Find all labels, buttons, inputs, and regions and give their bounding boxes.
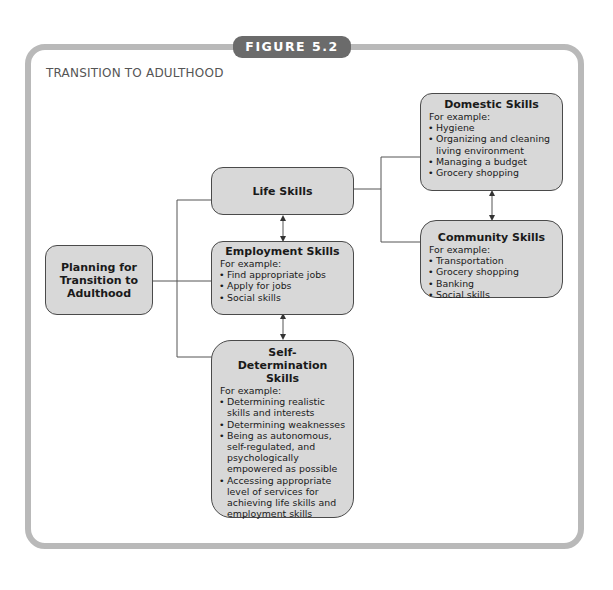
node-community-list: Transportation Grocery shopping Banking … bbox=[427, 255, 556, 300]
list-item: Determining realistic skills and interes… bbox=[218, 396, 347, 418]
node-planning: Planning for Transition to Adulthood bbox=[45, 245, 153, 315]
node-domestic-intro: For example: bbox=[427, 111, 556, 122]
node-planning-label: Planning for Transition to Adulthood bbox=[46, 261, 152, 300]
list-item: Banking bbox=[427, 278, 556, 289]
node-self-determination: Self-Determination Skills For example: D… bbox=[211, 340, 354, 518]
node-life-skills: Life Skills bbox=[211, 167, 354, 215]
list-item: Determining weaknesses bbox=[218, 419, 347, 430]
list-item: Apply for jobs bbox=[218, 280, 347, 291]
node-employment-intro: For example: bbox=[218, 258, 347, 269]
node-self-determination-list: Determining realistic skills and interes… bbox=[218, 396, 347, 519]
node-employment-label: Employment Skills bbox=[218, 245, 347, 258]
node-community-label: Community Skills bbox=[427, 231, 556, 244]
list-item: Accessing appropriate level of services … bbox=[218, 475, 347, 520]
list-item: Being as autonomous, self-regulated, and… bbox=[218, 430, 347, 475]
list-item: Hygiene bbox=[427, 122, 556, 133]
node-employment: Employment Skills For example: Find appr… bbox=[211, 241, 354, 315]
node-self-determination-label: Self-Determination Skills bbox=[218, 346, 347, 385]
list-item: Find appropriate jobs bbox=[218, 269, 347, 280]
node-domestic-list: Hygiene Organizing and cleaning living e… bbox=[427, 122, 556, 178]
list-item: Transportation bbox=[427, 255, 556, 266]
node-community: Community Skills For example: Transporta… bbox=[420, 220, 563, 298]
node-community-intro: For example: bbox=[427, 244, 556, 255]
list-item: Organizing and cleaning living environme… bbox=[427, 133, 556, 155]
list-item: Social skills bbox=[218, 292, 347, 303]
node-domestic: Domestic Skills For example: Hygiene Org… bbox=[420, 93, 563, 191]
list-item: Grocery shopping bbox=[427, 167, 556, 178]
list-item: Social skills bbox=[427, 289, 556, 300]
node-employment-list: Find appropriate jobs Apply for jobs Soc… bbox=[218, 269, 347, 303]
list-item: Managing a budget bbox=[427, 156, 556, 167]
list-item: Grocery shopping bbox=[427, 266, 556, 277]
node-self-determination-intro: For example: bbox=[218, 385, 347, 396]
node-life-skills-label: Life Skills bbox=[253, 185, 313, 198]
node-domestic-label: Domestic Skills bbox=[427, 98, 556, 111]
